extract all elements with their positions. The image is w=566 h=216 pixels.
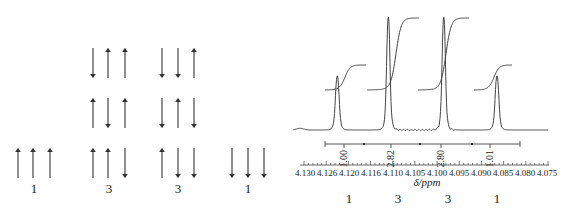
multiplicity-label: 3 (106, 181, 113, 196)
integral-curve (418, 18, 469, 90)
x-tick-label: 4.075 (537, 168, 558, 178)
x-tick-label: 4.126 (317, 168, 338, 178)
multiplicity-label: 1 (346, 191, 353, 206)
x-tick-label: 4.110 (383, 168, 403, 178)
x-axis: 4.1304.1264.1204.1164.1104.1054.1004.095… (295, 161, 558, 188)
spin-states-diagram (18, 48, 264, 178)
x-tick-label: 4.080 (515, 168, 536, 178)
x-tick-label: 4.130 (295, 168, 316, 178)
x-tick-label: 4.090 (471, 168, 492, 178)
x-axis-label: δ/ppm (413, 176, 440, 188)
multiplicity-label: 1 (31, 181, 38, 196)
integral-bar (325, 141, 520, 148)
x-tick-label: 4.120 (339, 168, 360, 178)
integral-curve (367, 18, 419, 90)
spectrum-multiplicity-labels: 1 3 3 1 (346, 191, 501, 206)
multiplicity-label: 3 (395, 191, 402, 206)
integral-curves (325, 18, 512, 90)
integral-curve (325, 65, 366, 90)
multiplicity-label: 3 (445, 191, 452, 206)
integral-curve (474, 65, 512, 90)
spin-state-multiplicity-labels: 1 3 3 1 (31, 181, 252, 196)
x-tick-label: 4.116 (361, 168, 381, 178)
spectrum-trace (293, 17, 548, 131)
multiplicity-label: 3 (175, 181, 182, 196)
x-tick-label: 4.085 (493, 168, 514, 178)
multiplicity-label: 1 (245, 181, 252, 196)
x-tick-label: 4.095 (449, 168, 470, 178)
multiplicity-label: 1 (494, 191, 501, 206)
nmr-splitting-figure: 1 3 3 1 1.00 2.82 2.80 1.01 4.1304.1264.… (0, 0, 566, 216)
nmr-spectrum: 1.00 2.82 2.80 1.01 4.1304.1264.1204.116… (293, 17, 558, 206)
